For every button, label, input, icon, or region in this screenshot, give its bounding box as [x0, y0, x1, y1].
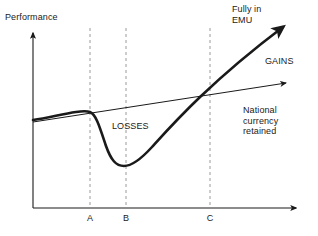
annotation-national-currency-retained: National currency retained — [243, 105, 278, 137]
annotation-gains: GAINS — [265, 56, 294, 67]
x-tick-label-c: C — [203, 213, 217, 223]
x-tick-label-b: B — [119, 213, 133, 223]
annotation-fully-in-emu: Fully in EMU — [232, 4, 261, 25]
y-axis-label: Performance — [5, 12, 58, 23]
series-fully-in-emu-curve — [33, 27, 283, 166]
vertical-guides — [90, 28, 210, 208]
emu-performance-figure: Performance Fully in EMU GAINS National … — [0, 0, 318, 236]
annotation-losses: LOSSES — [112, 121, 149, 132]
x-tick-label-a: A — [83, 213, 97, 223]
